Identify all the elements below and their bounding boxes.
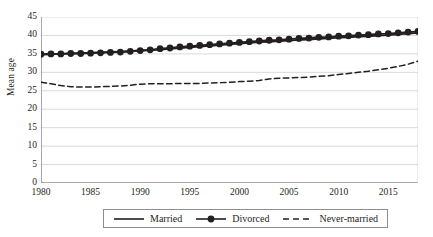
data-point-divorced (137, 47, 144, 54)
solid-line-icon (113, 214, 145, 224)
data-point-divorced (226, 40, 233, 47)
data-point-divorced (266, 37, 273, 44)
plot-area (41, 17, 418, 183)
series-line-never-married (41, 61, 418, 87)
y-axis-tick-40: 40 (15, 30, 37, 40)
x-axis-tick-2015: 2015 (368, 188, 408, 198)
data-point-divorced (355, 32, 362, 39)
data-point-divorced (315, 34, 322, 41)
data-point-divorced (176, 43, 183, 50)
data-point-divorced (365, 31, 372, 38)
y-axis-tick-20: 20 (15, 104, 37, 114)
chart-legend: Married Divorced Never-married (103, 209, 388, 228)
legend-label-married: Married (150, 213, 182, 224)
data-point-divorced (236, 39, 243, 46)
data-point-divorced (117, 49, 124, 56)
data-point-divorced (196, 42, 203, 49)
data-point-divorced (385, 30, 392, 37)
data-point-divorced (127, 48, 134, 55)
data-point-divorced (325, 34, 332, 41)
data-point-divorced (147, 46, 154, 53)
y-axis-tick-10: 10 (15, 141, 37, 151)
data-point-divorced (216, 41, 223, 48)
data-point-divorced (246, 38, 253, 45)
y-axis-tick-35: 35 (15, 49, 37, 59)
x-axis-tick-2005: 2005 (269, 188, 309, 198)
data-point-divorced (276, 36, 283, 43)
solid-line-circle-marker-icon (195, 214, 227, 224)
data-point-divorced (345, 32, 352, 39)
x-axis-tick-1985: 1985 (71, 188, 111, 198)
y-axis-tick-5: 5 (15, 160, 37, 170)
data-point-divorced (405, 29, 412, 36)
data-point-divorced (77, 50, 84, 57)
data-point-divorced (107, 49, 114, 56)
data-point-divorced (167, 45, 174, 52)
data-point-divorced (305, 35, 312, 42)
data-point-divorced (375, 31, 382, 38)
x-axis-tick-2010: 2010 (319, 188, 359, 198)
x-axis-tick-1995: 1995 (170, 188, 210, 198)
legend-item-divorced[interactable]: Divorced (195, 213, 269, 224)
x-axis-tick-1980: 1980 (21, 188, 61, 198)
legend-item-married[interactable]: Married (113, 213, 182, 224)
y-axis-tick-45: 45 (15, 12, 37, 22)
legend-label-divorced: Divorced (232, 213, 269, 224)
data-point-divorced (97, 49, 104, 56)
data-point-divorced (57, 50, 64, 57)
y-axis-tick-30: 30 (15, 67, 37, 77)
data-point-divorced (335, 33, 342, 40)
y-axis-tick-15: 15 (15, 123, 37, 133)
x-axis-tick-2000: 2000 (219, 188, 259, 198)
legend-item-never-married[interactable]: Never-married (282, 213, 378, 224)
data-point-divorced (286, 36, 293, 43)
data-point-divorced (186, 43, 193, 50)
data-point-divorced (157, 45, 164, 52)
data-point-divorced (67, 50, 74, 57)
chart-canvas (41, 17, 418, 183)
data-point-divorced (41, 51, 44, 58)
chart-figure: Mean age 051015202530354045 198019851990… (0, 0, 433, 237)
dashed-line-icon (282, 214, 314, 224)
data-point-divorced (206, 41, 213, 48)
data-point-divorced (87, 50, 94, 57)
data-point-divorced (296, 35, 303, 42)
data-point-divorced (48, 50, 55, 57)
data-point-divorced (256, 38, 263, 45)
y-axis-tick-25: 25 (15, 86, 37, 96)
data-point-divorced (395, 29, 402, 36)
legend-label-never-married: Never-married (319, 213, 378, 224)
x-axis-tick-1990: 1990 (120, 188, 160, 198)
